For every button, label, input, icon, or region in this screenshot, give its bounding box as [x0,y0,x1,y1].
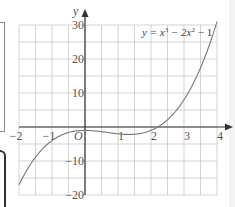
x-tick-labels: −2−11234 [10,129,223,143]
x-tick-label: 4 [217,129,223,143]
y-tick-label: −20 [65,188,84,202]
grid [19,25,217,195]
y-tick-label: 20 [72,52,84,66]
equation-label: y = x3 − 2x2 − 1 [141,26,212,38]
x-tick-label: 2 [151,129,157,143]
y-tick-label: 30 [72,18,84,32]
x-tick-label: −2 [10,129,23,143]
x-axis-arrow-icon [225,124,233,131]
x-tick-label: 1 [118,129,124,143]
eq-suffix: − 1 [195,26,212,38]
x-tick-label: 3 [184,129,190,143]
cubic-graph: −2−11234 302010−10−20 x y O y = x3 − 2x2… [0,0,235,207]
eq-prefix: y = x [141,26,165,38]
y-axis-label: y [72,4,79,18]
y-tick-label: −10 [65,154,84,168]
eq-middle: − 2x [168,26,191,38]
y-tick-label: 10 [72,86,84,100]
y-axis-arrow-icon [82,9,89,17]
x-tick-label: −1 [43,129,56,143]
